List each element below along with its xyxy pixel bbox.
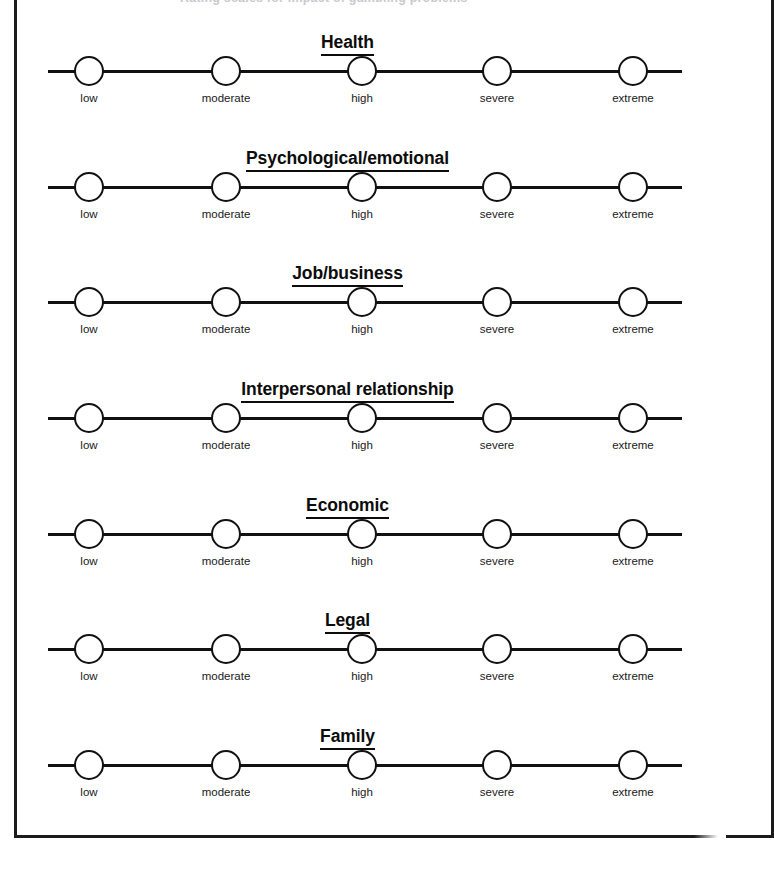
scale-option-label: high (302, 323, 422, 335)
scale-option-label: low (29, 323, 149, 335)
scale-option-high[interactable] (347, 287, 377, 317)
scale-option-label: extreme (573, 208, 693, 220)
scale-block: Economiclowmoderatehighsevereextreme (0, 495, 716, 605)
scale-option-label: low (29, 786, 149, 798)
scale-option-label: severe (437, 555, 557, 567)
scale-option-label: severe (437, 208, 557, 220)
scale-block: Healthlowmoderatehighsevereextreme (0, 32, 716, 142)
scale-block: Job/businesslowmoderatehighsevereextreme (0, 263, 716, 373)
scale-option-extreme[interactable] (618, 519, 648, 549)
scale-option-label: severe (437, 323, 557, 335)
scale-option-extreme[interactable] (618, 172, 648, 202)
scale-option-low[interactable] (74, 634, 104, 664)
scale-option-extreme[interactable] (618, 634, 648, 664)
scale-title-text: Health (321, 32, 374, 56)
scale-option-label: high (302, 670, 422, 682)
scale-option-label: low (29, 92, 149, 104)
scale-option-extreme[interactable] (618, 56, 648, 86)
scale-option-label: extreme (573, 555, 693, 567)
scale-option-label: high (302, 786, 422, 798)
scale-title: Interpersonal relationship (0, 379, 695, 400)
scale-option-extreme[interactable] (618, 287, 648, 317)
scale-option-severe[interactable] (482, 172, 512, 202)
scale-block: Legallowmoderatehighsevereextreme (0, 610, 716, 720)
scale-title: Family (0, 726, 695, 747)
scale-option-severe[interactable] (482, 519, 512, 549)
scale-block: Familylowmoderatehighsevereextreme (0, 726, 716, 836)
scale-option-label: moderate (166, 439, 286, 451)
scale-option-label: extreme (573, 786, 693, 798)
scale-option-high[interactable] (347, 519, 377, 549)
scale-option-moderate[interactable] (211, 287, 241, 317)
scale-option-moderate[interactable] (211, 403, 241, 433)
scale-title: Health (0, 32, 695, 53)
scale-option-high[interactable] (347, 172, 377, 202)
scale-option-high[interactable] (347, 56, 377, 86)
scale-option-high[interactable] (347, 403, 377, 433)
scale-option-label: moderate (166, 670, 286, 682)
scale-option-label: moderate (166, 323, 286, 335)
scale-option-label: severe (437, 439, 557, 451)
scale-option-label: moderate (166, 786, 286, 798)
scale-option-severe[interactable] (482, 750, 512, 780)
scale-option-moderate[interactable] (211, 750, 241, 780)
scale-option-extreme[interactable] (618, 750, 648, 780)
scale-option-severe[interactable] (482, 634, 512, 664)
scale-option-label: extreme (573, 439, 693, 451)
scale-option-label: high (302, 439, 422, 451)
scale-option-severe[interactable] (482, 403, 512, 433)
scale-option-extreme[interactable] (618, 403, 648, 433)
scale-option-label: extreme (573, 323, 693, 335)
scale-option-label: moderate (166, 92, 286, 104)
scale-option-label: low (29, 208, 149, 220)
scale-option-low[interactable] (74, 287, 104, 317)
scale-option-label: moderate (166, 208, 286, 220)
scale-title-text: Job/business (292, 263, 403, 287)
scale-option-moderate[interactable] (211, 56, 241, 86)
scale-option-low[interactable] (74, 403, 104, 433)
scale-option-moderate[interactable] (211, 634, 241, 664)
scale-option-label: low (29, 670, 149, 682)
scale-option-label: high (302, 555, 422, 567)
scale-title-text: Economic (306, 495, 389, 519)
scale-option-moderate[interactable] (211, 172, 241, 202)
scale-option-high[interactable] (347, 634, 377, 664)
scale-option-high[interactable] (347, 750, 377, 780)
scale-option-low[interactable] (74, 56, 104, 86)
scale-option-low[interactable] (74, 750, 104, 780)
scale-option-label: high (302, 92, 422, 104)
scale-option-low[interactable] (74, 172, 104, 202)
scale-option-label: severe (437, 92, 557, 104)
scale-option-severe[interactable] (482, 287, 512, 317)
scale-title-text: Psychological/emotional (246, 148, 449, 172)
scale-option-label: low (29, 555, 149, 567)
scale-option-label: extreme (573, 92, 693, 104)
scale-option-label: moderate (166, 555, 286, 567)
scale-option-label: severe (437, 670, 557, 682)
scale-title: Job/business (0, 263, 695, 284)
scale-block: Interpersonal relationshiplowmoderatehig… (0, 379, 716, 489)
scale-option-label: extreme (573, 670, 693, 682)
scale-title-text: Legal (325, 610, 370, 634)
scale-option-moderate[interactable] (211, 519, 241, 549)
scale-title-text: Interpersonal relationship (241, 379, 453, 403)
scale-option-label: low (29, 439, 149, 451)
scale-title: Economic (0, 495, 695, 516)
scale-option-label: high (302, 208, 422, 220)
scale-title-text: Family (320, 726, 375, 750)
scale-title: Psychological/emotional (0, 148, 695, 169)
scale-title: Legal (0, 610, 695, 631)
scale-block: Psychological/emotionallowmoderatehighse… (0, 148, 716, 258)
scale-option-label: severe (437, 786, 557, 798)
scale-option-severe[interactable] (482, 56, 512, 86)
scale-option-low[interactable] (74, 519, 104, 549)
